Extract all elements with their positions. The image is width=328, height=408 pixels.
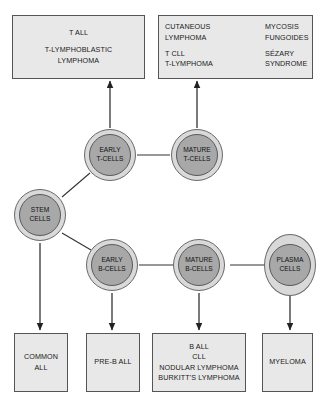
- node-early-t-cells: EARLY T-CELLS: [84, 129, 136, 181]
- node-plasma-cells-inner: PLASMA CELLS: [269, 244, 311, 286]
- mature-t-line1: MATURE: [183, 146, 210, 155]
- b-neoplasms-line1: B ALL: [189, 342, 209, 352]
- plasma-line1: PLASMA: [277, 256, 304, 265]
- node-mature-t-cells: MATURE T-CELLS: [171, 129, 223, 181]
- node-early-b-cells: EARLY B-CELLS: [86, 239, 138, 291]
- common-all-line2: ALL: [34, 363, 47, 373]
- early-t-line2: T-CELLS: [97, 155, 124, 164]
- cutaneous-left-column: CUTANEOUS LYMPHOMA T CLL T-LYMPHOMA: [165, 22, 213, 70]
- connector-stem-to-early-b: [62, 233, 91, 250]
- box-myeloma: MYELOMA: [262, 333, 313, 392]
- node-mature-b-cells: MATURE B-CELLS: [173, 239, 225, 291]
- b-neoplasms-line4: BURKITT'S LYMPHOMA: [158, 373, 239, 383]
- t-all-line1: T ALL: [69, 28, 88, 38]
- box-cutaneous-lymphoma: CUTANEOUS LYMPHOMA T CLL T-LYMPHOMA MYCO…: [158, 15, 313, 79]
- common-all-line1: COMMON: [24, 352, 58, 362]
- cutaneous-right-column: MYCOSIS FUNGOIDES SÉZARY SYNDROME: [265, 22, 309, 70]
- mature-b-line2: B-CELLS: [185, 265, 213, 274]
- myeloma-line1: MYELOMA: [269, 357, 306, 367]
- early-t-line1: EARLY: [99, 146, 120, 155]
- t-all-line3: LYMPHOMA: [58, 56, 99, 66]
- node-mature-t-cells-inner: MATURE T-CELLS: [176, 134, 218, 176]
- pre-b-all-line1: PRE-B ALL: [94, 357, 131, 367]
- early-b-line2: B-CELLS: [98, 265, 126, 274]
- node-early-t-cells-inner: EARLY T-CELLS: [89, 134, 131, 176]
- cutaneous-line1: CUTANEOUS: [165, 22, 213, 33]
- plasma-line2: CELLS: [280, 265, 301, 274]
- cutaneous-line2: LYMPHOMA: [165, 33, 213, 44]
- node-mature-b-cells-inner: MATURE B-CELLS: [178, 244, 220, 286]
- t-all-line2: T-LYMPHOBLASTIC: [45, 45, 113, 55]
- box-t-all: T ALL T-LYMPHOBLASTIC LYMPHOMA: [12, 15, 145, 79]
- box-b-cell-neoplasms: B ALL CLL NODULAR LYMPHOMA BURKITT'S LYM…: [152, 333, 246, 392]
- stem-line1: STEM: [31, 206, 49, 215]
- early-b-line1: EARLY: [101, 256, 122, 265]
- connector-stem-to-early-t: [62, 173, 90, 197]
- node-stem-cells-inner: STEM CELLS: [19, 194, 61, 236]
- sezary-line2: SYNDROME: [265, 59, 309, 70]
- sezary-line1: SÉZARY: [265, 49, 309, 60]
- b-neoplasms-line3: NODULAR LYMPHOMA: [159, 363, 238, 373]
- cutaneous-line3: T CLL: [165, 49, 213, 60]
- node-plasma-cells: PLASMA CELLS: [264, 234, 316, 296]
- mycosis-line1: MYCOSIS: [265, 22, 309, 33]
- box-common-all: COMMON ALL: [14, 333, 68, 392]
- box-pre-b-all: PRE-B ALL: [86, 333, 140, 392]
- b-neoplasms-line2: CLL: [192, 352, 206, 362]
- mature-b-line1: MATURE: [185, 256, 212, 265]
- lymphocyte-lineage-diagram: T ALL T-LYMPHOBLASTIC LYMPHOMA CUTANEOUS…: [0, 0, 328, 408]
- stem-line2: CELLS: [30, 215, 51, 224]
- node-early-b-cells-inner: EARLY B-CELLS: [91, 244, 133, 286]
- cutaneous-line4: T-LYMPHOMA: [165, 59, 213, 70]
- mycosis-line2: FUNGOIDES: [265, 33, 309, 44]
- node-stem-cells: STEM CELLS: [14, 189, 66, 241]
- mature-t-line2: T-CELLS: [184, 155, 211, 164]
